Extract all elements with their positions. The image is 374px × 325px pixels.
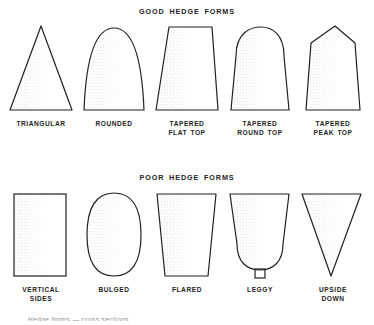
bulged-shape-icon	[79, 186, 149, 282]
label-tapered-round-top: TAPERED ROUND TOP	[225, 120, 295, 137]
label-leggy-line1: LEGGY	[225, 286, 295, 295]
label-tapered-flat-top-line2: FLAT TOP	[152, 129, 222, 138]
label-vertical-sides: VERTICAL SIDES	[6, 286, 76, 303]
hedge-form-bulged	[79, 186, 149, 282]
label-triangular-line1: TRIANGULAR	[6, 120, 76, 129]
cropped-caption-text: Hedge forms — cross sections	[28, 316, 358, 321]
hedge-form-flared	[152, 186, 222, 282]
label-bulged: BULGED	[79, 286, 149, 295]
tapered-flat-top-shape-icon	[152, 20, 222, 116]
poor-hedge-forms-section: POOR HEDGE FORMS	[0, 172, 374, 322]
label-tapered-round-top-line2: ROUND TOP	[225, 129, 295, 138]
hedge-form-vertical-sides	[6, 186, 76, 282]
label-rounded: ROUNDED	[79, 120, 149, 129]
good-hedge-forms-section: GOOD HEDGE FORMS	[0, 6, 374, 162]
tapered-round-top-shape-icon	[225, 20, 295, 116]
hedge-form-triangular	[6, 20, 76, 116]
label-flared: FLARED	[152, 286, 222, 295]
upside-down-shape-icon	[298, 186, 368, 282]
poor-shapes-row	[0, 184, 374, 282]
triangular-shape-icon	[6, 20, 76, 116]
label-vertical-sides-line2: SIDES	[6, 295, 76, 304]
tapered-peak-top-shape-icon	[298, 20, 368, 116]
hedge-form-tapered-peak-top	[298, 20, 368, 116]
label-upside-down-line1: UPSIDE	[298, 286, 368, 295]
label-rounded-line1: ROUNDED	[79, 120, 149, 129]
vertical-sides-shape-icon	[6, 186, 76, 282]
label-triangular: TRIANGULAR	[6, 120, 76, 129]
label-tapered-peak-top: TAPERED PEAK TOP	[298, 120, 368, 137]
label-upside-down: UPSIDE DOWN	[298, 286, 368, 303]
poor-labels-row: VERTICAL SIDES BULGED FLARED LEGGY UPSID…	[0, 286, 374, 303]
poor-hedge-forms-title: POOR HEDGE FORMS	[0, 172, 374, 184]
label-bulged-line1: BULGED	[79, 286, 149, 295]
label-tapered-flat-top-line1: TAPERED	[152, 120, 222, 129]
label-tapered-flat-top: TAPERED FLAT TOP	[152, 120, 222, 137]
hedge-form-tapered-round-top	[225, 20, 295, 116]
label-upside-down-line2: DOWN	[298, 295, 368, 304]
good-hedge-forms-title: GOOD HEDGE FORMS	[0, 6, 374, 18]
label-flared-line1: FLARED	[152, 286, 222, 295]
hedge-forms-figure: GOOD HEDGE FORMS	[0, 0, 374, 325]
good-labels-row: TRIANGULAR ROUNDED TAPERED FLAT TOP TAPE…	[0, 120, 374, 137]
label-tapered-peak-top-line1: TAPERED	[298, 120, 368, 129]
label-tapered-round-top-line1: TAPERED	[225, 120, 295, 129]
hedge-form-tapered-flat-top	[152, 20, 222, 116]
hedge-form-upside-down	[298, 186, 368, 282]
flared-shape-icon	[152, 186, 222, 282]
hedge-form-leggy	[225, 186, 295, 282]
leggy-shape-icon	[225, 186, 295, 282]
rounded-shape-icon	[79, 20, 149, 116]
label-leggy: LEGGY	[225, 286, 295, 295]
good-shapes-row	[0, 18, 374, 116]
label-vertical-sides-line1: VERTICAL	[6, 286, 76, 295]
label-tapered-peak-top-line2: PEAK TOP	[298, 129, 368, 138]
hedge-form-rounded	[79, 20, 149, 116]
